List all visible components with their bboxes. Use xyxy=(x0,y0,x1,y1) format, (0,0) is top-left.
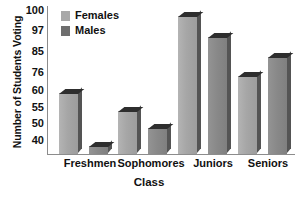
bar-seniors-males xyxy=(268,57,287,154)
y-tick-label: 50 xyxy=(17,118,44,129)
bar-face xyxy=(118,111,137,154)
bar-face xyxy=(268,57,287,154)
x-tick-label: Juniors xyxy=(193,157,233,169)
bar-face xyxy=(89,146,108,154)
y-axis-line xyxy=(47,6,48,155)
bar-side-face xyxy=(227,31,231,153)
legend-swatch-males-icon xyxy=(61,26,70,36)
x-axis-title: Class xyxy=(0,176,298,188)
x-tick-label: Freshmen xyxy=(64,157,117,169)
legend-label-males: Males xyxy=(75,25,106,36)
y-tick-label: 85 xyxy=(17,46,44,57)
y-tick-label: 76 xyxy=(17,67,44,78)
bar-side-face xyxy=(78,87,82,153)
legend-label-females: Females xyxy=(75,10,119,21)
bar-freshmen-females xyxy=(59,93,78,154)
bar-chart: Number of Students Voting 10097857660555… xyxy=(0,0,298,198)
legend-swatch-females-icon xyxy=(61,11,70,21)
bar-side-face xyxy=(257,70,261,153)
legend: Females Males xyxy=(61,9,119,39)
y-tick-label: 55 xyxy=(17,102,44,113)
bar-juniors-females xyxy=(178,16,197,154)
bar-side-face xyxy=(287,51,291,153)
y-axis-tick-labels: 10097857660555040 xyxy=(17,0,44,198)
x-axis-line xyxy=(47,154,295,155)
y-tick-label: 60 xyxy=(17,85,44,96)
y-tick-label: 97 xyxy=(17,25,44,36)
bar-sophomores-females xyxy=(118,111,137,154)
bar-face xyxy=(178,16,197,154)
legend-item-females: Females xyxy=(61,9,119,22)
x-tick-label: Seniors xyxy=(248,157,288,169)
bar-juniors-males xyxy=(208,37,227,154)
bar-sophomores-males xyxy=(148,128,167,154)
bar-seniors-females xyxy=(238,76,257,154)
bar-face xyxy=(208,37,227,154)
bar-face xyxy=(59,93,78,154)
bar-side-face xyxy=(137,105,141,153)
x-tick-label: Sophomores xyxy=(117,157,184,169)
bar-freshmen-males xyxy=(89,146,108,154)
y-tick-label: 40 xyxy=(17,135,44,146)
bar-face xyxy=(148,128,167,154)
bar-face xyxy=(238,76,257,154)
legend-item-males: Males xyxy=(61,24,119,37)
y-tick-label: 100 xyxy=(17,5,44,16)
bar-side-face xyxy=(197,10,201,153)
